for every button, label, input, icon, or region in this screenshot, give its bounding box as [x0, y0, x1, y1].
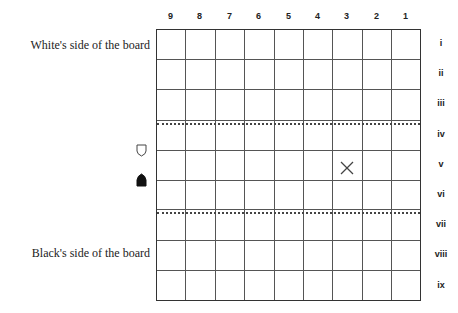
column-label: 3 [332, 11, 361, 21]
column-label: 2 [362, 11, 391, 21]
grid-line [244, 30, 245, 300]
grid-line [157, 270, 420, 271]
column-label: 9 [156, 11, 185, 21]
row-label: ix [424, 280, 458, 290]
row-label: iii [424, 98, 458, 108]
grid-line [362, 30, 363, 300]
grid-line [157, 120, 420, 121]
row-label: iv [424, 129, 458, 139]
row-label: vii [424, 219, 458, 229]
grid-line [157, 89, 420, 90]
black-side-label: Black's side of the board [0, 246, 150, 261]
column-label: 6 [244, 11, 273, 21]
grid-line [303, 30, 304, 300]
grid-line [157, 150, 420, 151]
row-label: vi [424, 189, 458, 199]
promotion-zone-line-black [157, 212, 420, 214]
grid-line [332, 30, 333, 300]
black-pawn-icon [136, 173, 147, 187]
column-label: 4 [303, 11, 332, 21]
shogi-board [156, 29, 421, 301]
grid-line [215, 30, 216, 300]
row-label: i [424, 38, 458, 48]
cross-mark-icon [340, 161, 354, 175]
grid-line [157, 59, 420, 60]
grid-line [185, 30, 186, 300]
grid-line [391, 30, 392, 300]
row-label: v [424, 159, 458, 169]
white-pawn-icon [136, 144, 147, 157]
row-label: ii [424, 68, 458, 78]
grid-line [157, 240, 420, 241]
column-label: 1 [391, 11, 420, 21]
row-label: viii [424, 249, 458, 259]
column-label: 7 [215, 11, 244, 21]
grid-line [274, 30, 275, 300]
grid-line [157, 209, 420, 210]
grid-line [157, 180, 420, 181]
promotion-zone-line-white [157, 123, 420, 125]
white-side-label: White's side of the board [0, 38, 150, 53]
column-label: 5 [274, 11, 303, 21]
column-label: 8 [185, 11, 214, 21]
